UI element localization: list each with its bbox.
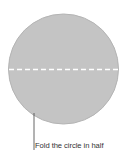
caption-fold-instruction: Fold the circle in half	[35, 141, 104, 150]
fold-diagram	[0, 0, 137, 163]
